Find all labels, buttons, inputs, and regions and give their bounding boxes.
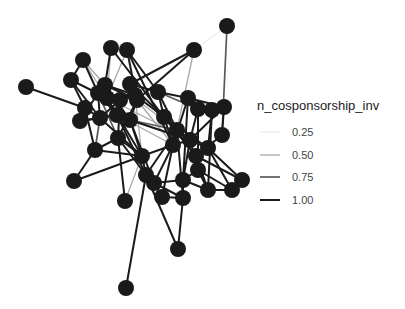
legend-item-1: 0.50 bbox=[257, 144, 379, 167]
node bbox=[186, 42, 202, 58]
node bbox=[182, 132, 198, 148]
node bbox=[156, 109, 172, 125]
node bbox=[175, 172, 191, 188]
node bbox=[216, 99, 232, 115]
legend-line-icon bbox=[260, 195, 280, 205]
node bbox=[66, 173, 82, 189]
legend-item-0: 0.25 bbox=[257, 121, 379, 144]
node bbox=[72, 113, 88, 129]
legend-label: 0.50 bbox=[292, 149, 313, 161]
node bbox=[122, 112, 138, 128]
node bbox=[146, 175, 162, 191]
legend-title: n_cosponsorship_inv bbox=[257, 98, 379, 113]
node bbox=[117, 193, 133, 209]
edge-layer bbox=[26, 26, 242, 288]
legend-item-2: 0.75 bbox=[257, 166, 379, 189]
edge bbox=[74, 156, 142, 181]
node bbox=[219, 18, 235, 34]
legend-label: 0.75 bbox=[292, 171, 313, 183]
node bbox=[112, 92, 128, 108]
legend-label: 0.25 bbox=[292, 126, 313, 138]
node bbox=[188, 148, 204, 164]
legend-line-icon bbox=[260, 172, 280, 182]
node bbox=[170, 241, 186, 257]
node bbox=[110, 130, 126, 146]
legend: n_cosponsorship_inv 0.25 0.50 0.75 1.00 bbox=[257, 98, 379, 211]
node bbox=[119, 42, 135, 58]
node bbox=[175, 190, 191, 206]
node bbox=[63, 72, 79, 88]
node bbox=[134, 148, 150, 164]
legend-item-3: 1.00 bbox=[257, 189, 379, 212]
node bbox=[169, 122, 185, 138]
node bbox=[75, 52, 91, 68]
node bbox=[127, 87, 143, 103]
node bbox=[118, 280, 134, 296]
node bbox=[90, 85, 106, 101]
node bbox=[87, 142, 103, 158]
node bbox=[92, 110, 108, 126]
node bbox=[214, 127, 230, 143]
node bbox=[150, 84, 166, 100]
node bbox=[165, 137, 181, 153]
node bbox=[18, 79, 34, 95]
node bbox=[190, 162, 206, 178]
legend-line-icon bbox=[260, 127, 280, 137]
node bbox=[234, 172, 250, 188]
legend-label: 1.00 bbox=[292, 194, 313, 206]
node bbox=[190, 101, 206, 117]
node bbox=[103, 40, 119, 56]
node bbox=[200, 182, 216, 198]
legend-line-icon bbox=[260, 150, 280, 160]
node bbox=[154, 189, 170, 205]
